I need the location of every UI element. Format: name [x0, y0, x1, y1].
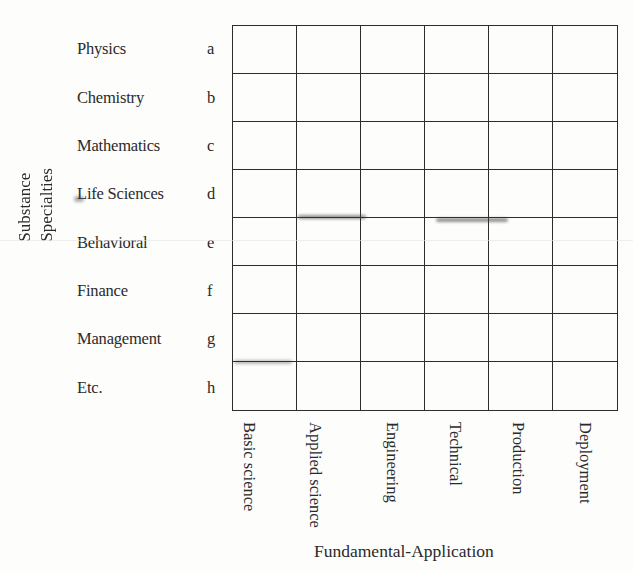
matrix-cell-b-6: [553, 74, 617, 122]
matrix-cell-d-4: [425, 170, 489, 218]
row-label-management: Management: [77, 329, 161, 349]
column-label-applied-science-line-1: Applied: [306, 422, 325, 475]
matrix-cell-d-6: [553, 170, 617, 218]
matrix-cell-h-4: [425, 362, 489, 410]
matrix-grid: [232, 25, 618, 411]
matrix-cell-d-1: [233, 170, 297, 218]
column-label-basic-science-line-1: Basic: [240, 422, 259, 459]
scan-line: [0, 240, 633, 241]
row-label-mathematics: Mathematics: [77, 136, 160, 156]
matrix-cell-f-5: [489, 266, 553, 314]
row-letter-e: e: [207, 233, 214, 253]
y-axis-title: Substance Specialties: [14, 168, 58, 242]
matrix-cell-c-2: [297, 122, 361, 170]
row-letter-a: a: [207, 39, 214, 59]
matrix-cell-e-5: [489, 218, 553, 266]
matrix-cell-g-3: [361, 314, 425, 362]
row-label-behavioral: Behavioral: [77, 233, 147, 253]
row-label-life-sciences: Life Sciences: [77, 184, 164, 204]
row-letter-d: d: [207, 184, 215, 204]
matrix-cell-b-3: [361, 74, 425, 122]
scan-smudge: [436, 218, 508, 222]
matrix-cell-c-6: [553, 122, 617, 170]
matrix-cell-f-2: [297, 266, 361, 314]
row-label-physics: Physics: [77, 39, 126, 59]
matrix-cell-b-1: [233, 74, 297, 122]
matrix-cell-c-5: [489, 122, 553, 170]
column-label-basic-science-line-2: science: [240, 463, 259, 512]
matrix-cell-h-2: [297, 362, 361, 410]
matrix-cell-e-2: [297, 218, 361, 266]
matrix-cell-h-6: [553, 362, 617, 410]
matrix-cell-b-4: [425, 74, 489, 122]
matrix-cell-g-2: [297, 314, 361, 362]
matrix-cell-a-1: [233, 26, 297, 74]
matrix-cell-d-3: [361, 170, 425, 218]
matrix-cell-b-5: [489, 74, 553, 122]
matrix-cell-a-5: [489, 26, 553, 74]
scan-smudge: [74, 196, 84, 202]
column-label-basic-science: Basic science: [240, 422, 259, 511]
matrix-cell-g-6: [553, 314, 617, 362]
row-letter-g: g: [207, 329, 215, 349]
row-letter-c: c: [207, 136, 214, 156]
matrix-cell-h-3: [361, 362, 425, 410]
row-letter-f: f: [207, 281, 213, 301]
y-axis-title-line-2: Specialties: [36, 168, 58, 242]
row-label-etc: Etc.: [77, 378, 102, 398]
matrix-cell-h-5: [489, 362, 553, 410]
matrix-cell-a-4: [425, 26, 489, 74]
matrix-cell-f-3: [361, 266, 425, 314]
matrix-cell-d-2: [297, 170, 361, 218]
matrix-cell-e-3: [361, 218, 425, 266]
scan-smudge: [234, 360, 292, 364]
matrix-cell-e-4: [425, 218, 489, 266]
matrix-cell-g-1: [233, 314, 297, 362]
matrix-cell-b-2: [297, 74, 361, 122]
matrix-cell-f-4: [425, 266, 489, 314]
matrix-cell-h-1: [233, 362, 297, 410]
matrix-cell-g-4: [425, 314, 489, 362]
column-label-technical: Technical: [446, 422, 465, 486]
matrix-cell-g-5: [489, 314, 553, 362]
matrix-cell-f-6: [553, 266, 617, 314]
row-label-finance: Finance: [77, 281, 128, 301]
matrix-cell-d-5: [489, 170, 553, 218]
column-label-applied-science: Applied science: [306, 422, 325, 528]
matrix-cell-c-3: [361, 122, 425, 170]
row-letter-b: b: [207, 88, 215, 108]
column-label-applied-science-line-2: science: [306, 479, 325, 528]
row-letter-h: h: [207, 378, 215, 398]
x-axis-title: Fundamental-Application: [314, 540, 494, 562]
matrix-cell-a-3: [361, 26, 425, 74]
matrix-cell-e-6: [553, 218, 617, 266]
matrix-cell-a-6: [553, 26, 617, 74]
matrix-cell-c-1: [233, 122, 297, 170]
matrix-cell-c-4: [425, 122, 489, 170]
scan-smudge: [298, 215, 366, 219]
column-label-engineering: Engineering: [383, 422, 402, 503]
matrix-cell-a-2: [297, 26, 361, 74]
column-label-production: Production: [509, 422, 528, 494]
matrix-cell-f-1: [233, 266, 297, 314]
matrix-cell-e-1: [233, 218, 297, 266]
row-label-chemistry: Chemistry: [77, 88, 144, 108]
y-axis-title-line-1: Substance: [14, 168, 36, 242]
column-label-deployment: Deployment: [576, 422, 595, 504]
